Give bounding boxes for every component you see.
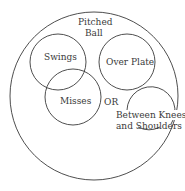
over-plate-label: Over Plate <box>106 57 154 67</box>
pitched-ball-label-line2: Ball <box>85 28 103 38</box>
misses-label: Misses <box>60 96 91 106</box>
swings-circle <box>30 34 86 90</box>
or-label: OR <box>104 97 118 107</box>
knees-label-line2: and Shoulders <box>116 121 182 131</box>
pitched-ball-label-line1: Pitched <box>78 17 112 27</box>
knees-label-line1: Between Knees <box>116 110 185 120</box>
swings-label: Swings <box>44 52 77 62</box>
